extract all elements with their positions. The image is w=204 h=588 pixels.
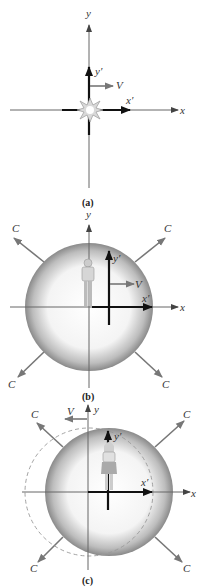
x-label: x	[190, 487, 196, 499]
relativity-diagram: y x y′ x′ V (a) y x y′ x′ V C C C C (b)	[0, 0, 204, 588]
flash-icon	[77, 98, 103, 122]
y-prime-label: y′	[113, 430, 122, 442]
c-label: C	[162, 378, 170, 390]
x-prime-label: x′	[125, 94, 134, 106]
panel-c: y x y′ x′ V C C C C (c)	[22, 403, 196, 587]
c-label: C	[12, 222, 20, 234]
c-label: C	[31, 408, 39, 420]
y-label: y	[85, 7, 91, 19]
c-label: C	[30, 562, 38, 574]
light-ray-arrow	[18, 352, 44, 377]
x-label: x	[179, 104, 185, 116]
light-ray-arrow	[155, 421, 184, 447]
x-prime-label: x′	[141, 292, 150, 304]
x-label: x	[179, 301, 185, 313]
light-ray-arrow	[38, 537, 63, 562]
velocity-label: V	[67, 405, 75, 417]
x-prime-label: x′	[140, 476, 149, 488]
y-label: y	[93, 403, 99, 415]
panel-b: y x y′ x′ V C C C C (b)	[8, 208, 185, 403]
panel-caption: (c)	[82, 575, 93, 587]
light-ray-arrow	[14, 238, 44, 262]
c-label: C	[183, 562, 191, 574]
light-ray-arrow	[155, 537, 182, 562]
panel-a: y x y′ x′ V (a)	[10, 7, 185, 209]
c-label: C	[164, 222, 172, 234]
c-label: C	[8, 378, 16, 390]
y-label: y	[85, 208, 91, 220]
velocity-label: V	[116, 79, 124, 91]
y-prime-label: y′	[112, 252, 121, 264]
light-ray-arrow	[37, 423, 63, 447]
light-ray-arrow	[135, 352, 162, 377]
y-prime-label: y′	[94, 65, 103, 77]
light-ray-arrow	[135, 238, 165, 262]
panel-caption: (b)	[82, 391, 94, 403]
c-label: C	[183, 408, 191, 420]
